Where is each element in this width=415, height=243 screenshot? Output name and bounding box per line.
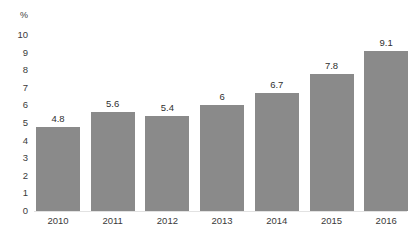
y-axis-tick-label: 7 bbox=[0, 83, 28, 93]
bar[interactable] bbox=[36, 127, 80, 211]
bar[interactable] bbox=[255, 93, 299, 211]
x-axis-category-label: 2015 bbox=[310, 215, 354, 226]
bar-group: 9.1 bbox=[364, 51, 408, 211]
y-axis-tick-label: 2 bbox=[0, 171, 28, 181]
y-axis-tick-label: 3 bbox=[0, 153, 28, 163]
bar[interactable] bbox=[91, 112, 135, 211]
bar-group: 6.7 bbox=[255, 93, 299, 211]
y-axis-tick-label: 1 bbox=[0, 188, 28, 198]
bar-group: 7.8 bbox=[310, 74, 354, 211]
x-axis-category-label: 2012 bbox=[145, 215, 189, 226]
bar-value-label: 5.6 bbox=[91, 99, 135, 109]
bar[interactable] bbox=[310, 74, 354, 211]
bar-value-label: 5.4 bbox=[145, 103, 189, 113]
bar-group: 5.6 bbox=[91, 112, 135, 211]
x-axis-category-label: 2011 bbox=[91, 215, 135, 226]
bar-value-label: 6.7 bbox=[255, 80, 299, 90]
y-axis-tick-label: 10 bbox=[0, 30, 28, 40]
bar-group: 5.4 bbox=[145, 116, 189, 211]
x-axis-category-label: 2010 bbox=[36, 215, 80, 226]
y-axis-tick-label: 9 bbox=[0, 48, 28, 58]
y-axis-tick-label: 4 bbox=[0, 136, 28, 146]
bar-group: 4.8 bbox=[36, 127, 80, 211]
bar-value-label: 9.1 bbox=[364, 38, 408, 48]
y-axis-tick-label: 8 bbox=[0, 65, 28, 75]
bar-value-label: 4.8 bbox=[36, 114, 80, 124]
y-axis-tick-label: 6 bbox=[0, 100, 28, 110]
x-axis-category-label: 2013 bbox=[200, 215, 244, 226]
y-axis-tick-label: 5 bbox=[0, 118, 28, 128]
x-axis-category-label: 2014 bbox=[255, 215, 299, 226]
bar-chart: % 109876543210 4.85.65.466.77.89.1 20102… bbox=[0, 0, 415, 243]
bar[interactable] bbox=[200, 105, 244, 211]
bar[interactable] bbox=[145, 116, 189, 211]
bar-series: 4.85.65.466.77.89.1 bbox=[34, 0, 415, 243]
y-axis-tick-label: 0 bbox=[0, 206, 28, 216]
bar[interactable] bbox=[364, 51, 408, 211]
y-axis: 109876543210 bbox=[0, 0, 34, 243]
bar-group: 6 bbox=[200, 105, 244, 211]
plot-area: 4.85.65.466.77.89.1 20102011201220132014… bbox=[34, 0, 415, 243]
bar-value-label: 6 bbox=[200, 92, 244, 102]
x-axis-category-label: 2016 bbox=[364, 215, 408, 226]
bar-value-label: 7.8 bbox=[310, 61, 354, 71]
